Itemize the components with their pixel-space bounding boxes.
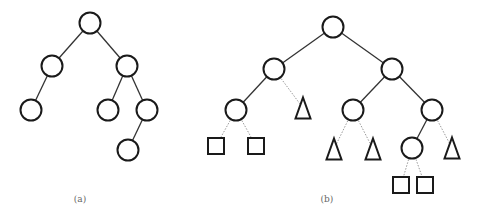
circle-node — [226, 100, 247, 121]
tree-diagram — [0, 0, 477, 216]
triangle-subtree-node — [327, 139, 342, 160]
circle-node — [42, 56, 63, 77]
circle-node — [80, 13, 101, 34]
circle-node — [21, 100, 42, 121]
nodes-layer — [21, 13, 460, 194]
circle-node — [137, 100, 158, 121]
circle-node — [264, 59, 285, 80]
circle-node — [422, 100, 443, 121]
caption-panel-b: (b) — [321, 194, 334, 204]
circle-node — [98, 100, 119, 121]
triangle-subtree-node — [366, 139, 381, 160]
square-leaf-node — [393, 177, 409, 193]
circle-node — [382, 59, 403, 80]
circle-node — [118, 140, 139, 161]
square-leaf-node — [208, 138, 224, 154]
circle-node — [117, 56, 138, 77]
square-leaf-node — [248, 138, 264, 154]
circle-node — [343, 100, 364, 121]
circle-node — [323, 17, 344, 38]
triangle-subtree-node — [445, 138, 460, 159]
caption-panel-a: (a) — [74, 194, 86, 204]
square-leaf-node — [417, 177, 433, 193]
circle-node — [402, 138, 423, 159]
